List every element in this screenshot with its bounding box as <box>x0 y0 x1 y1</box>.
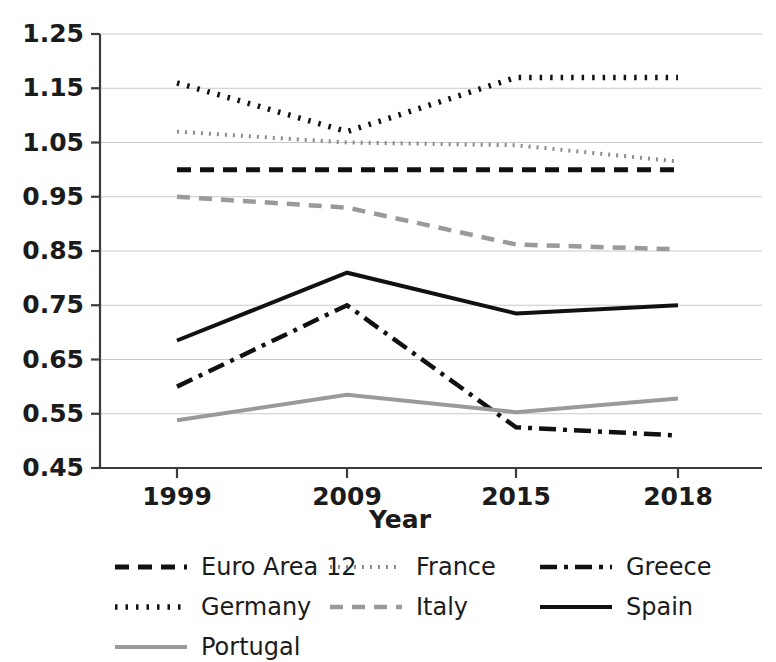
legend-item-portugal[interactable]: Portugal <box>115 633 300 661</box>
y-tick-label: 0.45 <box>22 453 84 482</box>
legend-label: Greece <box>626 553 711 581</box>
series-line-france <box>177 132 678 162</box>
legend-item-germany[interactable]: Germany <box>115 593 311 621</box>
y-tick-label: 0.95 <box>22 182 84 211</box>
x-tick-label: 1999 <box>142 482 212 511</box>
series-line-greece <box>177 305 678 435</box>
x-axis-title: Year <box>368 505 432 534</box>
legend-label: France <box>416 553 496 581</box>
y-axis-ticks <box>91 34 100 468</box>
y-tick-label: 0.65 <box>22 345 84 374</box>
y-tick-label: 0.85 <box>22 236 84 265</box>
data-series-group <box>177 77 678 435</box>
x-tick-label: 2015 <box>481 482 551 511</box>
chart-legend: Euro Area 12FranceGreeceGermanyItalySpai… <box>115 553 711 661</box>
x-tick-label: 2018 <box>643 482 713 511</box>
legend-item-italy[interactable]: Italy <box>330 593 468 621</box>
legend-item-euro-area-12[interactable]: Euro Area 12 <box>115 553 356 581</box>
series-line-portugal <box>177 395 678 421</box>
legend-label: Italy <box>416 593 468 621</box>
y-tick-label: 1.25 <box>22 19 84 48</box>
series-line-germany <box>177 77 678 131</box>
chart-container: 0.450.550.650.750.850.951.051.151.25 199… <box>0 0 776 662</box>
line-chart: 0.450.550.650.750.850.951.051.151.25 199… <box>0 0 776 662</box>
legend-label: Euro Area 12 <box>201 553 356 581</box>
x-axis-ticks <box>177 468 678 478</box>
y-tick-label: 0.55 <box>22 399 84 428</box>
legend-item-greece[interactable]: Greece <box>540 553 711 581</box>
legend-label: Germany <box>201 593 311 621</box>
y-axis-tick-labels: 0.450.550.650.750.850.951.051.151.25 <box>22 19 84 482</box>
legend-item-spain[interactable]: Spain <box>540 593 693 621</box>
y-tick-label: 1.15 <box>22 73 84 102</box>
y-tick-label: 1.05 <box>22 128 84 157</box>
series-line-italy <box>177 197 678 250</box>
y-tick-label: 0.75 <box>22 290 84 319</box>
legend-label: Portugal <box>201 633 300 661</box>
legend-label: Spain <box>626 593 693 621</box>
series-line-spain <box>177 273 678 341</box>
